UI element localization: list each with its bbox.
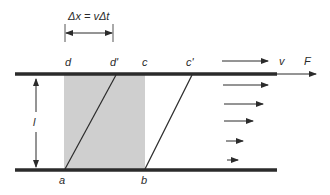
label-c-prime: c' bbox=[186, 56, 195, 68]
height-label: l bbox=[33, 116, 36, 128]
label-a: a bbox=[59, 174, 65, 186]
force-label: F bbox=[304, 55, 312, 67]
velocity-label: v bbox=[279, 55, 286, 67]
label-b: b bbox=[141, 174, 147, 186]
label-c: c bbox=[142, 56, 148, 68]
sheared-edge-bc-prime bbox=[145, 75, 192, 169]
shaded-fluid-element bbox=[64, 75, 145, 169]
label-d: d bbox=[65, 56, 72, 68]
label-d-prime: d' bbox=[110, 56, 119, 68]
shear-flow-diagram: Δx = vΔt l d d' c c' a b v F bbox=[0, 0, 330, 195]
velocity-profile bbox=[223, 85, 268, 160]
displacement-label: Δx = vΔt bbox=[67, 10, 110, 22]
